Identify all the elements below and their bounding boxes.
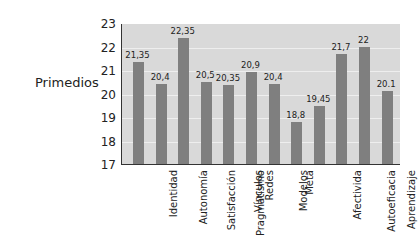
bar [223, 85, 234, 164]
bar-value-label: 22,35 [163, 26, 203, 36]
x-tick-label: Satisfacción [226, 170, 237, 230]
y-tick-label: 20 [92, 89, 116, 101]
bar-value-label: 19,45 [298, 94, 338, 104]
bar-value-label: 20,35 [208, 73, 248, 83]
bar [291, 122, 302, 164]
y-tick-label: 18 [92, 136, 116, 148]
x-tick-label: Autonomía [198, 170, 209, 224]
bar [269, 84, 280, 164]
y-tick-label: 23 [92, 18, 116, 30]
x-tick-label: Vínculos [253, 170, 264, 212]
x-tick-label: Autoeficacia [386, 170, 397, 232]
bar [156, 84, 167, 164]
bar-value-label: 21,35 [118, 50, 158, 60]
x-tick-label: Aprendizaje [406, 170, 417, 229]
bar-value-label: 20,9 [231, 60, 271, 70]
y-axis-title: Primedios [35, 75, 99, 90]
bar-value-label: 20,4 [140, 72, 180, 82]
y-tick-label: 17 [92, 159, 116, 171]
bar [201, 82, 212, 164]
x-tick-label: Identidad [168, 170, 179, 217]
x-tick-label: Afectivida [351, 170, 362, 220]
bar [178, 38, 189, 164]
x-tick-label: Redes [264, 170, 275, 200]
bar [336, 54, 347, 164]
bar-value-label: 20,4 [253, 72, 293, 82]
y-tick-label: 22 [92, 42, 116, 54]
bar [359, 47, 370, 165]
bar-value-label: 22 [344, 35, 384, 45]
bar [382, 91, 393, 164]
x-tick-label: Meta [304, 170, 315, 195]
bar [246, 72, 257, 164]
y-tick-label: 19 [92, 112, 116, 124]
y-tick-label: 21 [92, 65, 116, 77]
bar-value-label: 18,8 [276, 110, 316, 120]
bar-value-label: 20.1 [366, 79, 406, 89]
